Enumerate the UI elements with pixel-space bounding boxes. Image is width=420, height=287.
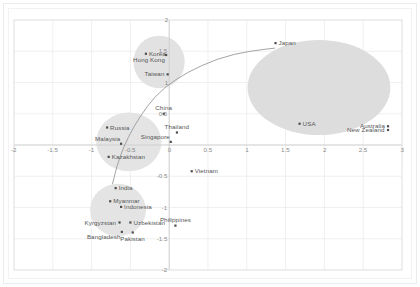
y-axis-tick-label: -0.5 [157,173,168,179]
y-axis-tick-label: -2 [162,267,168,273]
data-point-marker[interactable] [387,129,389,131]
data-point-marker[interactable] [108,156,110,158]
data-point-label: Russia [110,125,130,131]
data-point-marker[interactable] [121,231,123,233]
y-axis-tick-label: -1.5 [157,236,168,242]
data-point-label: Bangladesh [87,234,121,240]
data-point-label: Hong Kong [133,57,165,63]
y-axis-tick-label: 0.5 [159,111,168,117]
y-axis-tick-label: 1 [165,80,168,86]
data-point-marker[interactable] [191,170,193,172]
y-axis-tick-label: 1.5 [159,48,168,54]
data-point-marker[interactable] [118,221,120,223]
plot-area: KoreaHong KongTaiwanJapanChinaThailandSi… [0,0,420,287]
data-point-label: Vietnam [195,168,218,174]
cluster-ellipse-developed-west [248,40,391,135]
x-axis-tick-label: -2 [11,147,17,153]
data-point-marker[interactable] [106,126,108,128]
x-axis-tick-label: -0.5 [125,147,136,153]
data-point-label: Singapore [141,134,170,140]
data-point-label: Philippines [160,217,191,223]
data-point-label: Thailand [165,124,190,130]
x-axis-tick-label: 1.5 [281,147,290,153]
x-axis-tick-label: 0 [168,147,171,153]
data-point-label: Pakistan [120,236,145,242]
data-point-marker[interactable] [298,123,300,125]
x-axis-tick-label: -1.5 [47,147,58,153]
data-point-marker[interactable] [120,143,122,145]
data-point-marker[interactable] [170,141,172,143]
data-point-label: Taiwan [145,71,165,77]
data-point-label: Kazakhstan [112,154,145,160]
x-axis-tick-label: 0.5 [204,147,213,153]
data-point-label: Kyrgyzstan [85,220,117,226]
data-point-label: Indonesia [124,204,152,210]
y-axis-tick-label: 2 [165,17,168,23]
data-point-marker[interactable] [115,187,117,189]
data-point-label: New Zealand [347,127,385,133]
data-point-marker[interactable] [129,221,131,223]
data-point-label: India [119,185,133,191]
data-point-label: Malaysia [95,136,120,142]
data-point-label: USA [303,121,316,127]
data-point-marker[interactable] [167,73,169,75]
x-axis-tick-label: 1 [245,147,248,153]
x-axis-tick-label: 3 [401,147,404,153]
data-point-marker[interactable] [176,131,178,133]
data-point-marker[interactable] [145,53,147,55]
x-axis-tick-label: 2 [323,147,326,153]
data-point-marker[interactable] [132,231,134,233]
x-axis-tick-label: 2.5 [359,147,368,153]
y-axis-tick-label: -1 [162,205,168,211]
data-point-marker[interactable] [274,42,276,44]
data-point-marker[interactable] [174,225,176,227]
scatter-plot-figure: KoreaHong KongTaiwanJapanChinaThailandSi… [0,0,420,287]
data-point-label: Japan [279,40,296,46]
x-axis-tick-label: -1 [89,147,95,153]
plot-canvas [0,0,420,287]
data-point-marker[interactable] [387,125,389,127]
data-point-marker[interactable] [120,206,122,208]
data-point-marker[interactable] [109,200,111,202]
